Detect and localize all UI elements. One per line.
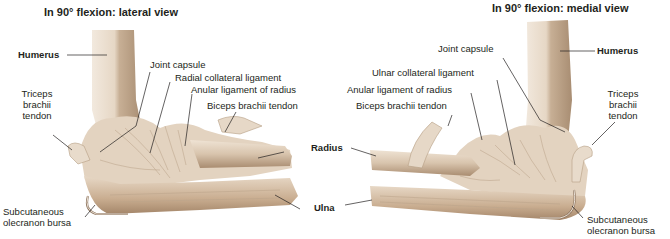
label-ulna: Ulna	[314, 202, 335, 213]
label-joint-capsule-right: Joint capsule	[438, 43, 493, 54]
label-olecranon-bursa-left: Subcutaneous olecranon bursa	[3, 206, 71, 228]
label-ulnar-collateral-ligament: Ulnar collateral ligament	[372, 67, 474, 78]
label-olecranon-bursa-right: Subcutaneous olecranon bursa	[587, 214, 655, 236]
label-joint-capsule-left: Joint capsule	[150, 59, 205, 70]
label-anular-ligament-right: Anular ligament of radius	[347, 84, 452, 95]
label-humerus-left: Humerus	[18, 49, 59, 60]
biceps-tendon-left	[218, 116, 262, 134]
label-radius: Radius	[311, 142, 343, 153]
label-biceps-tendon-right: Biceps brachii tendon	[356, 100, 447, 111]
label-biceps-tendon-left: Biceps brachii tendon	[207, 100, 298, 111]
humerus-bone-right	[525, 20, 572, 140]
label-triceps-tendon-right: Triceps brachii tendon	[605, 88, 641, 121]
elbow-illustration	[0, 0, 670, 239]
lateral-view-illustration	[68, 30, 298, 214]
label-anular-ligament-left: Anular ligament of radius	[191, 84, 296, 95]
label-triceps-tendon-left: Triceps brachii tendon	[19, 88, 55, 121]
label-humerus-right: Humerus	[597, 45, 638, 56]
lateral-view-title: In 90° flexion: lateral view	[44, 6, 178, 18]
medial-view-title: In 90° flexion: medial view	[492, 2, 628, 14]
label-radial-collateral-ligament: Radial collateral ligament	[175, 72, 281, 83]
